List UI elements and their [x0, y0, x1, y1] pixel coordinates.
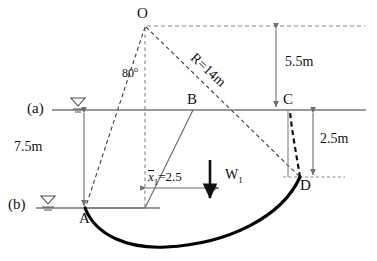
- angle-label-80deg: 80o: [122, 66, 138, 79]
- centroid-arm-value: =2.5: [158, 169, 182, 184]
- point-label-B: B: [187, 92, 197, 107]
- level-label-b: (b): [8, 197, 26, 212]
- wedge-outline: [85, 110, 193, 208]
- dimension-label-5-5m: 5.5m: [285, 55, 313, 69]
- radius-line-OA: [85, 27, 145, 209]
- radius-line-OD: [146, 27, 301, 178]
- point-label-C: C: [283, 92, 293, 107]
- weight-symbol: W: [225, 167, 238, 182]
- point-label-A: A: [79, 211, 90, 226]
- weight-subscript: 1: [238, 175, 243, 185]
- weight-label-W1: W1: [225, 168, 243, 185]
- point-label-O: O: [137, 6, 148, 21]
- point-label-D: D: [300, 178, 311, 193]
- angle-degree-symbol: o: [134, 65, 138, 74]
- figure-canvas: O A B C D (a) (b) 80o R=14m 5.5m 7.5m 2.…: [0, 0, 377, 261]
- angle-value: 80: [122, 66, 134, 80]
- slip-surface-arc-dashed-upper: [290, 112, 300, 177]
- dimension-label-7-5m: 7.5m: [14, 140, 42, 154]
- level-label-a: (a): [27, 101, 44, 116]
- dimension-label-centroid-arm: x1=2.5: [148, 170, 182, 187]
- dimension-label-2-5m: 2.5m: [320, 132, 348, 146]
